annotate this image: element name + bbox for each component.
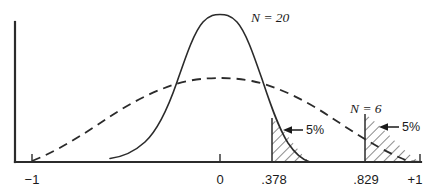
x-tick-label-minus-one: −1 [25,172,40,187]
hatch-fill-n6 [361,108,423,166]
statistical-distribution-figure: −1 0 .378 .829 +1 N = 20 N = 6 5% 5% [0,0,432,193]
x-tick-label-zero: 0 [216,172,223,187]
x-tick-label-point-378: .378 [261,172,286,187]
hatch-fill-n20 [268,112,316,166]
chart-canvas: −1 0 .378 .829 +1 N = 20 N = 6 5% 5% [0,0,432,193]
curve-label-n6: N = 6 [349,101,382,116]
five-percent-label-n20: 5% [306,123,324,137]
x-tick-label-plus-one: +1 [408,172,423,187]
annotation-five-percent-n20: 5% [283,123,324,137]
distribution-curve-n6 [32,78,420,162]
critical-region-n20 [268,112,316,166]
x-tick-label-point-829: .829 [353,172,378,187]
critical-region-n6 [361,108,423,166]
five-percent-label-n6: 5% [402,120,420,134]
curve-label-n20: N = 20 [250,10,290,25]
